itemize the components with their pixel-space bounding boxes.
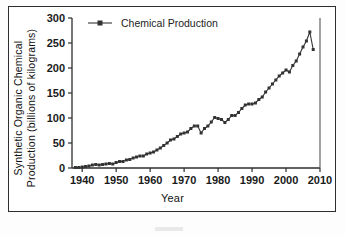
y-tick-label: 150 [47, 87, 65, 99]
data-point-marker [278, 75, 281, 78]
data-point-marker [81, 166, 84, 169]
y-tick-label: 200 [47, 62, 65, 74]
data-point-marker [149, 152, 152, 155]
data-point-marker [111, 163, 114, 166]
data-point-marker [142, 155, 145, 158]
data-point-marker [108, 162, 111, 165]
data-point-marker [220, 118, 223, 121]
data-point-marker [281, 72, 284, 75]
data-point-marker [189, 127, 192, 130]
data-point-marker [312, 48, 315, 51]
x-tick-label: 1950 [104, 174, 128, 186]
data-point-marker [186, 131, 189, 134]
y-axis-title: Synthetic Organic Chemical Production (b… [12, 13, 38, 203]
data-series-chemical-production [74, 31, 315, 170]
y-axis-title-line-2: Production (billions of kilograms) [25, 13, 38, 203]
data-point-marker [291, 64, 294, 67]
data-point-marker [179, 133, 182, 136]
data-point-marker [135, 156, 138, 159]
y-tick-label: 0 [59, 162, 65, 174]
data-point-marker [166, 142, 169, 145]
data-point-marker [196, 125, 199, 128]
scan-artifact [155, 227, 183, 231]
data-point-marker [234, 114, 237, 117]
x-axis: 19401950196019701980199020002010 [70, 18, 332, 186]
series-line-chemical-production [75, 32, 313, 168]
data-point-marker [210, 121, 213, 124]
data-point-marker [244, 104, 247, 107]
x-tick-label: 1960 [138, 174, 162, 186]
chart-plot-area: 050100150200250300 194019501960197019801… [8, 6, 336, 212]
data-point-marker [268, 87, 271, 90]
data-point-marker [121, 160, 124, 163]
data-point-marker [132, 157, 135, 160]
x-axis-title: Year [0, 192, 345, 204]
x-tick-label: 1990 [240, 174, 264, 186]
data-point-marker [94, 163, 97, 166]
data-point-marker [155, 149, 158, 152]
data-point-marker [288, 71, 291, 74]
y-tick-label: 100 [47, 112, 65, 124]
data-point-marker [118, 160, 121, 163]
data-point-marker [285, 69, 288, 72]
data-point-marker [104, 163, 107, 166]
data-point-marker [240, 107, 243, 110]
data-point-marker [254, 102, 257, 105]
data-point-marker [203, 127, 206, 130]
chart-legend: Chemical Production [88, 17, 218, 29]
data-point-marker [115, 161, 118, 164]
y-axis-title-line-1: Synthetic Organic Chemical [12, 13, 25, 203]
data-point-marker [152, 151, 155, 154]
data-point-marker [193, 125, 196, 128]
data-point-marker [138, 155, 141, 158]
y-tick-label: 250 [47, 37, 65, 49]
data-point-marker [77, 166, 80, 169]
data-point-marker [230, 114, 233, 117]
y-tick-label: 300 [47, 12, 65, 24]
data-point-marker [213, 116, 216, 119]
data-point-marker [251, 103, 254, 106]
data-point-marker [217, 117, 220, 120]
x-axis-tick-labels: 19401950196019701980199020002010 [70, 174, 332, 186]
data-point-marker [308, 31, 311, 34]
data-point-marker [298, 53, 301, 56]
data-point-marker [247, 103, 250, 106]
data-point-marker [162, 144, 165, 147]
data-point-marker [87, 165, 90, 168]
data-point-marker [145, 153, 148, 156]
figure-container: 050100150200250300 194019501960197019801… [0, 0, 345, 237]
x-tick-label: 1970 [172, 174, 196, 186]
data-point-marker [74, 166, 77, 169]
x-tick-label: 2010 [308, 174, 332, 186]
data-point-marker [264, 91, 267, 94]
y-axis: 050100150200250300 [47, 12, 72, 174]
data-point-marker [84, 165, 87, 168]
data-point-marker [125, 159, 128, 162]
data-point-marker [183, 132, 186, 135]
x-tick-label: 1940 [70, 174, 94, 186]
data-point-marker [257, 98, 260, 101]
y-tick-label: 50 [53, 137, 65, 149]
data-point-marker [172, 138, 175, 141]
data-point-marker [101, 163, 104, 166]
y-axis-tick-labels: 050100150200250300 [47, 12, 65, 174]
data-point-marker [274, 79, 277, 82]
x-tick-label: 1980 [206, 174, 230, 186]
data-point-marker [91, 164, 94, 167]
legend-marker-sample [98, 21, 103, 26]
data-point-marker [159, 147, 162, 150]
legend-label-chemical-production: Chemical Production [121, 17, 218, 29]
data-point-marker [237, 111, 240, 114]
data-point-marker [128, 158, 131, 161]
series-markers-chemical-production [74, 31, 315, 170]
x-tick-label: 2000 [274, 174, 298, 186]
data-point-marker [98, 164, 101, 167]
data-point-marker [169, 139, 172, 142]
data-point-marker [200, 132, 203, 135]
data-point-marker [302, 46, 305, 49]
data-point-marker [227, 118, 230, 121]
data-point-marker [223, 121, 226, 124]
data-point-marker [261, 96, 264, 99]
data-point-marker [295, 60, 298, 63]
data-point-marker [271, 83, 274, 86]
